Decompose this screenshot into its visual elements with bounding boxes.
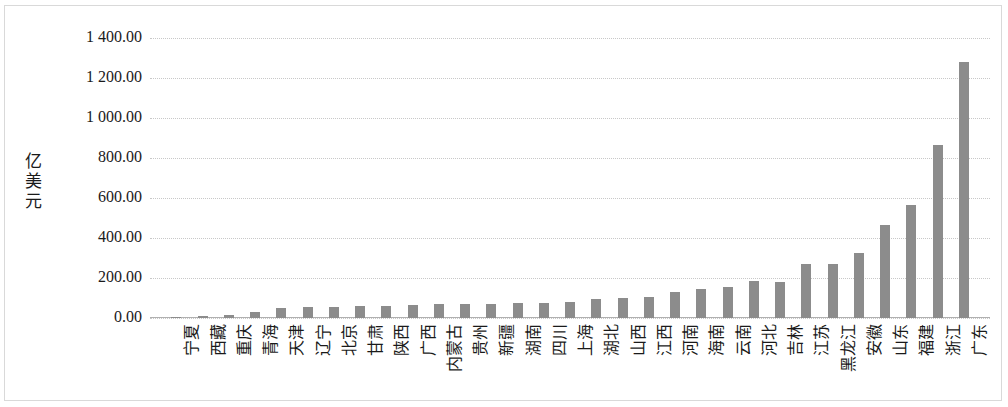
bar — [696, 289, 706, 318]
x-axis-tick-label: 甘肃 — [368, 324, 384, 407]
y-axis-tick-label: 0.00 — [42, 308, 142, 326]
x-axis-tick-label: 湖北 — [604, 324, 620, 407]
bar — [959, 62, 969, 318]
x-axis-tick-label: 江西 — [657, 324, 673, 407]
bar — [618, 298, 628, 318]
x-axis-tick-label: 山西 — [631, 324, 647, 407]
x-axis-tick-label: 广西 — [421, 324, 437, 407]
x-axis-tick-label: 浙江 — [946, 324, 962, 407]
y-axis-tick-label: 200.00 — [42, 268, 142, 286]
bar — [434, 304, 444, 318]
x-axis-tick-label: 云南 — [736, 324, 752, 407]
bar — [906, 205, 916, 318]
x-axis-tick-label: 北京 — [342, 324, 358, 407]
bar — [303, 307, 313, 318]
bar — [408, 305, 418, 318]
x-axis-tick-label: 安徽 — [867, 324, 883, 407]
bar — [749, 281, 759, 318]
x-axis-tick-label: 湖南 — [526, 324, 542, 407]
bar — [933, 145, 943, 318]
bar — [460, 304, 470, 318]
bar — [880, 225, 890, 318]
x-axis-tick-label: 广东 — [972, 324, 988, 407]
x-axis-tick-labels: 宁夏西藏重庆青海天津辽宁北京甘肃陕西广西内蒙古贵州新疆湖南四川上海湖北山西江西河… — [150, 318, 990, 407]
gridline — [150, 118, 990, 119]
y-axis-tick-label: 1 000.00 — [42, 108, 142, 126]
bar — [670, 292, 680, 318]
x-axis-tick-label: 海南 — [709, 324, 725, 407]
x-axis-tick-label: 福建 — [919, 324, 935, 407]
gridline — [150, 38, 990, 39]
bar — [723, 287, 733, 318]
x-axis-tick-label: 青海 — [263, 324, 279, 407]
x-axis-tick-label: 上海 — [578, 324, 594, 407]
x-axis-tick-label: 贵州 — [473, 324, 489, 407]
x-axis-tick-label: 河北 — [762, 324, 778, 407]
y-axis-tick-label: 800.00 — [42, 148, 142, 166]
bar — [828, 264, 838, 318]
bar — [329, 307, 339, 318]
bar — [539, 303, 549, 318]
x-axis-tick-label: 辽宁 — [316, 324, 332, 407]
gridline — [150, 198, 990, 199]
x-axis-tick-label: 内蒙古 — [447, 324, 463, 407]
x-axis-tick-label: 西藏 — [211, 324, 227, 407]
bar — [644, 297, 654, 318]
gridline — [150, 278, 990, 279]
x-axis-tick-label: 宁夏 — [184, 324, 200, 407]
y-axis-tick-label: 400.00 — [42, 228, 142, 246]
y-axis-title: 亿美元 — [22, 152, 44, 212]
y-axis-tick-labels: 1 400.001 200.001 000.00800.00600.00400.… — [42, 0, 142, 407]
x-axis-tick-label: 河南 — [683, 324, 699, 407]
y-axis-tick-label: 1 400.00 — [42, 28, 142, 46]
bar — [565, 302, 575, 318]
bar — [591, 299, 601, 318]
x-axis-tick-label: 陕西 — [394, 324, 410, 407]
chart-figure: 亿美元 1 400.001 200.001 000.00800.00600.00… — [0, 0, 1008, 407]
x-axis-tick-label: 吉林 — [788, 324, 804, 407]
bar — [276, 308, 286, 318]
gridline — [150, 158, 990, 159]
bar — [381, 306, 391, 318]
bar — [513, 303, 523, 318]
bar — [854, 253, 864, 318]
plot-area — [150, 38, 990, 318]
y-axis-tick-label: 600.00 — [42, 188, 142, 206]
x-axis-tick-label: 江苏 — [814, 324, 830, 407]
bar — [355, 306, 365, 318]
x-axis-tick-label: 山东 — [893, 324, 909, 407]
y-axis-tick-label: 1 200.00 — [42, 68, 142, 86]
x-axis-tick-label: 重庆 — [237, 324, 253, 407]
bar — [486, 304, 496, 318]
x-axis-tick-label: 新疆 — [499, 324, 515, 407]
bar — [801, 264, 811, 318]
x-axis-tick-label: 四川 — [552, 324, 568, 407]
x-axis-tick-label: 天津 — [289, 324, 305, 407]
gridline — [150, 78, 990, 79]
bar — [775, 282, 785, 318]
gridline — [150, 238, 990, 239]
x-axis-tick-label: 黑龙江 — [841, 324, 857, 407]
